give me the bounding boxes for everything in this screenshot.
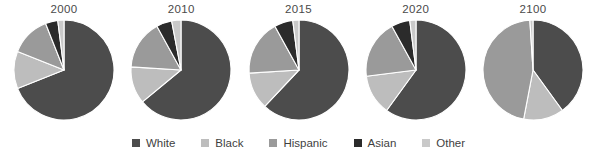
pie-panels-row: 20002010201520202100 bbox=[0, 0, 597, 130]
legend-item-asian: Asian bbox=[354, 137, 397, 150]
pie-panel-2010: 2010 bbox=[125, 0, 237, 122]
legend-item-other: Other bbox=[422, 137, 465, 150]
pie-svg-2015 bbox=[247, 18, 351, 122]
pie-chart-figure: 20002010201520202100 WhiteBlackHispanicA… bbox=[0, 0, 597, 160]
pie-svg-2000 bbox=[12, 18, 116, 122]
legend-swatch-icon bbox=[354, 139, 362, 147]
legend-label: White bbox=[146, 137, 175, 150]
legend-swatch-icon bbox=[201, 139, 209, 147]
pie-panel-2000: 2000 bbox=[8, 0, 120, 122]
pie-panel-2015: 2015 bbox=[243, 0, 355, 122]
legend-swatch-icon bbox=[269, 139, 277, 147]
pie-panel-title: 2020 bbox=[402, 3, 429, 16]
legend-label: Hispanic bbox=[283, 137, 327, 150]
pie-svg-2100 bbox=[481, 18, 585, 122]
pie-graphic bbox=[364, 18, 468, 122]
legend-item-white: White bbox=[132, 137, 175, 150]
pie-graphic bbox=[12, 18, 116, 122]
legend-swatch-icon bbox=[132, 139, 140, 147]
legend-label: Other bbox=[436, 137, 465, 150]
legend-item-black: Black bbox=[201, 137, 243, 150]
legend-item-hispanic: Hispanic bbox=[269, 137, 327, 150]
legend-swatch-icon bbox=[422, 139, 430, 147]
pie-slice-hispanic bbox=[483, 20, 533, 119]
pie-panel-2020: 2020 bbox=[360, 0, 472, 122]
legend-label: Black bbox=[215, 137, 243, 150]
pie-panel-title: 2000 bbox=[51, 3, 78, 16]
legend-label: Asian bbox=[368, 137, 397, 150]
pie-graphic bbox=[129, 18, 233, 122]
pie-graphic bbox=[247, 18, 351, 122]
pie-svg-2020 bbox=[364, 18, 468, 122]
pie-panel-2100: 2100 bbox=[477, 0, 589, 122]
pie-graphic bbox=[481, 18, 585, 122]
pie-panel-title: 2100 bbox=[520, 3, 547, 16]
pie-svg-2010 bbox=[129, 18, 233, 122]
pie-panel-title: 2015 bbox=[285, 3, 312, 16]
pie-panel-title: 2010 bbox=[168, 3, 195, 16]
chart-legend: WhiteBlackHispanicAsianOther bbox=[0, 131, 597, 155]
